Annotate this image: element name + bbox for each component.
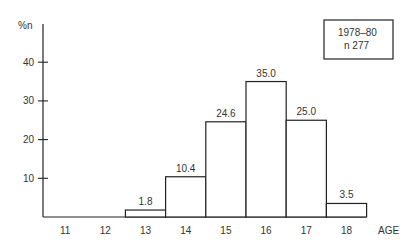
x-tick-label: 15 xyxy=(220,225,232,236)
x-tick-label: 12 xyxy=(100,225,112,236)
x-axis-label: AGE xyxy=(378,225,399,236)
x-tick-label: 13 xyxy=(140,225,152,236)
bars: 1.810.424.635.025.03.5 xyxy=(125,68,366,217)
y-tick-label: 20 xyxy=(23,134,35,145)
y-axis-label: %n xyxy=(18,20,32,31)
bar-value-label: 10.4 xyxy=(176,163,196,174)
bar-age-18 xyxy=(326,203,366,217)
x-tick-label: 11 xyxy=(60,225,71,236)
x-tick-label: 16 xyxy=(261,225,273,236)
bar-age-13 xyxy=(125,210,165,217)
x-tick-labels: 1112131415161718 xyxy=(60,225,353,236)
bar-value-label: 25.0 xyxy=(297,106,317,117)
histogram-chart: 10203040 1.810.424.635.025.03.5 11121314… xyxy=(0,0,416,248)
y-tick-label: 10 xyxy=(23,173,35,184)
x-tick-label: 14 xyxy=(180,225,192,236)
bar-value-label: 3.5 xyxy=(340,189,354,200)
bar-age-14 xyxy=(166,177,206,217)
bar-age-17 xyxy=(286,120,326,217)
y-tick-label: 40 xyxy=(23,57,35,68)
legend-line-1: 1978–80 xyxy=(338,27,377,38)
legend-box: 1978–80 n 277 xyxy=(324,20,393,59)
x-tick-label: 17 xyxy=(301,225,313,236)
legend-line-2: n 277 xyxy=(344,40,369,51)
x-tick-label: 18 xyxy=(341,225,353,236)
bar-age-16 xyxy=(246,82,286,217)
y-tick-label: 30 xyxy=(23,95,35,106)
y-ticks: 10203040 xyxy=(23,57,48,184)
bar-value-label: 35.0 xyxy=(256,68,276,79)
bar-value-label: 24.6 xyxy=(216,108,236,119)
bar-value-label: 1.8 xyxy=(139,196,153,207)
bar-age-15 xyxy=(206,122,246,217)
